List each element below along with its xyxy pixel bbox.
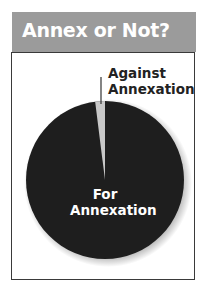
label-for-line1: For [70,186,140,202]
label-for-annexation: For Annexation [70,186,140,218]
label-against-annexation: Against Annexation [108,65,195,97]
pie-chart [0,0,204,291]
label-against-line1: Against [108,65,195,81]
label-against-line2: Annexation [108,81,195,97]
label-for-line2: Annexation [70,202,140,218]
